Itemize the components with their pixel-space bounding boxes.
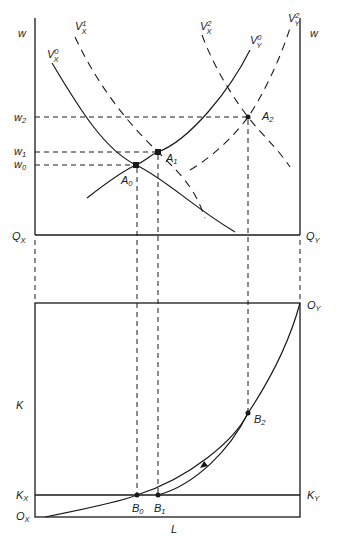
point-b1 bbox=[156, 493, 161, 498]
vx0-label: V0X bbox=[47, 47, 60, 64]
adjustment-path bbox=[158, 413, 248, 495]
origin-qx-label: QX bbox=[12, 230, 27, 245]
point-a0 bbox=[133, 162, 139, 168]
vy0-label: V0Y bbox=[250, 33, 263, 50]
a2-label: A2 bbox=[261, 110, 274, 124]
point-b2 bbox=[246, 411, 251, 416]
connecting-guides bbox=[35, 120, 300, 495]
w0-label: w0 bbox=[14, 158, 27, 172]
w1-label: w1 bbox=[14, 145, 26, 159]
b1-label: B1 bbox=[154, 502, 166, 516]
k-axis-label: K bbox=[16, 399, 24, 411]
l-axis-label: L bbox=[171, 523, 177, 535]
point-b0 bbox=[135, 493, 140, 498]
kx-label: KX bbox=[16, 489, 29, 503]
bottom-panel: K L OX OY KX KY B0 B1 B2 bbox=[16, 299, 322, 535]
top-right-w-label: w bbox=[310, 27, 319, 39]
origin-ox-label: OX bbox=[16, 510, 31, 524]
factor-market-diagram: w w QX QY w2 w1 w0 V0X V1X V2X V0Y V2Y A… bbox=[0, 0, 339, 547]
top-panel: w w QX QY w2 w1 w0 V0X V1X V2X V0Y V2Y A… bbox=[12, 11, 321, 245]
vx2-label: V2X bbox=[200, 19, 213, 36]
curve-vx0 bbox=[52, 63, 235, 232]
vx1-label: V1X bbox=[75, 19, 88, 36]
point-a2 bbox=[246, 115, 251, 120]
curve-vx2 bbox=[202, 35, 290, 167]
edgeworth-box bbox=[35, 303, 300, 517]
top-left-w-label: w bbox=[18, 27, 27, 39]
origin-oy-label: OY bbox=[307, 299, 322, 313]
a0-label: A0 bbox=[120, 174, 133, 188]
b0-label: B0 bbox=[132, 502, 144, 516]
curve-vy2 bbox=[190, 28, 290, 170]
b2-label: B2 bbox=[254, 413, 266, 427]
w2-label: w2 bbox=[14, 111, 27, 125]
origin-qy-label: QY bbox=[306, 230, 321, 245]
point-a1 bbox=[155, 149, 161, 155]
ky-label: KY bbox=[307, 489, 320, 503]
contract-curve bbox=[45, 303, 300, 517]
vy2-label: V2Y bbox=[288, 11, 301, 28]
curve-vy0 bbox=[87, 50, 250, 198]
a1-label: A1 bbox=[165, 152, 178, 166]
